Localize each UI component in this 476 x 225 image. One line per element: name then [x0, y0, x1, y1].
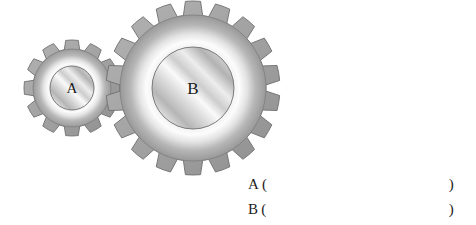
answer-row-b: B ( )	[248, 201, 454, 225]
gear-question-page: A B A ( ) B ( )	[0, 0, 476, 225]
answer-label-b: B	[248, 201, 258, 218]
answer-paren-open-a: (	[262, 176, 267, 193]
answer-label-a: A	[248, 176, 259, 193]
gear-a-label: A	[67, 80, 78, 96]
answer-block: A ( ) B ( )	[248, 176, 454, 225]
answer-paren-close-a: )	[449, 176, 454, 193]
answer-paren-open-b: (	[261, 201, 266, 218]
gear-b: B	[106, 1, 279, 175]
gear-a: A	[24, 40, 120, 136]
answer-paren-close-b: )	[449, 201, 454, 218]
gear-b-label: B	[187, 79, 198, 98]
answer-row-a: A ( )	[248, 176, 454, 201]
